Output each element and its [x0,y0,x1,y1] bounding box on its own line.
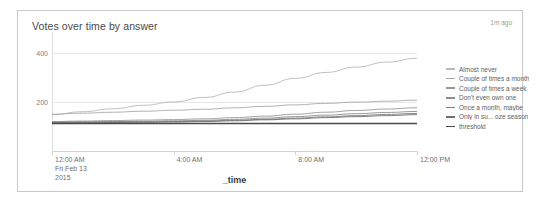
legend-label: Couple of times a month [459,75,529,82]
x-axis-tick [295,151,296,155]
legend-swatch [446,68,455,70]
legend-item[interactable]: threshold [446,122,543,130]
legend-label: Almost never [459,66,497,73]
legend-item[interactable]: Once a month, maybe [446,103,543,111]
x-axis-title: _time [52,175,417,185]
x-axis-tick [52,151,53,155]
legend-swatch [446,97,455,99]
refresh-timestamp: 1m ago [490,19,512,26]
x-axis-tick-label: 12:00 PM [420,156,450,163]
legend-item[interactable]: Couple of times a month [446,75,543,83]
chart-legend: Almost neverCouple of times a monthCoupl… [446,65,543,132]
plot-region: 200400 12:00 AMFri Feb 1320154:00 AM8:00… [52,43,417,151]
legend-swatch [446,116,455,118]
legend-item[interactable]: Only in su... oze season [446,113,543,121]
legend-label: Don't even own one [459,94,516,101]
legend-item[interactable]: Don't even own one [446,94,543,102]
x-axis-tick [174,151,175,155]
panel-title: Votes over time by answer [32,20,158,32]
x-axis-line [52,151,417,152]
legend-swatch [446,87,455,89]
x-axis-sublabel: Fri Feb 13 [55,165,87,172]
legend-label: Couple of times a week [459,85,527,92]
x-axis-tick-label: 8:00 AM [298,156,324,163]
x-axis-tick-label: 12:00 AM [55,156,85,163]
legend-label: threshold [459,123,486,130]
x-axis-tick [417,151,418,155]
y-axis-tick-label: 200 [36,98,48,105]
legend-item[interactable]: Couple of times a week [446,84,543,92]
legend-label: Only in su... oze season [459,113,528,120]
dashboard-panel: Votes over time by answer 1m ago 200400 … [17,10,523,192]
series-line [52,58,417,114]
legend-item[interactable]: Almost never [446,65,543,73]
series-line [52,100,417,114]
y-axis-tick-label: 400 [36,49,48,56]
legend-swatch [446,126,455,128]
x-axis-tick-label: 4:00 AM [177,156,203,163]
series-lines [52,43,417,151]
legend-swatch [446,78,455,80]
legend-label: Once a month, maybe [459,104,523,111]
legend-swatch [446,107,455,109]
